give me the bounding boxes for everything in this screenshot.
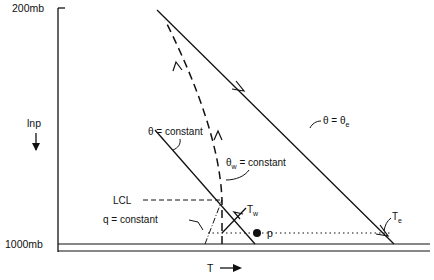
diagram-canvas: 200mb 1000mb lnp T p θ = θe θ = constant… [0,0,434,280]
theta-w-label: θw = constant [226,157,286,170]
lcl-label: LCL [113,195,132,206]
down-arrow-icon [32,133,40,151]
q-constant-label: q = constant [103,214,158,225]
theta-w-leader [226,170,249,180]
moist-arrow-icon-1 [214,131,222,140]
te-label: Te [392,211,402,224]
theta-e-label: θ = θe [323,115,350,128]
moist-arrow-icon-2 [173,62,182,71]
q-constant-leader [189,220,203,230]
x-axis-label: T [207,262,214,274]
theta-constant-leader [173,139,180,150]
y-axis-label: lnp [27,117,41,129]
theta-constant-label: θ = constant [148,126,203,137]
right-arrow-icon [220,264,242,272]
theta-constant-line [155,130,255,244]
y-bottom-label: 1000mb [5,238,43,250]
tw-label: Tw [247,204,259,217]
theta-e-arrow-icon-2 [376,225,388,236]
te-leader [384,218,391,231]
theta-e-leader [310,121,321,128]
q-constant-line [205,200,222,244]
y-top-label: 200mb [12,2,44,14]
point-p-label: p [267,227,273,239]
point-p [253,229,261,237]
